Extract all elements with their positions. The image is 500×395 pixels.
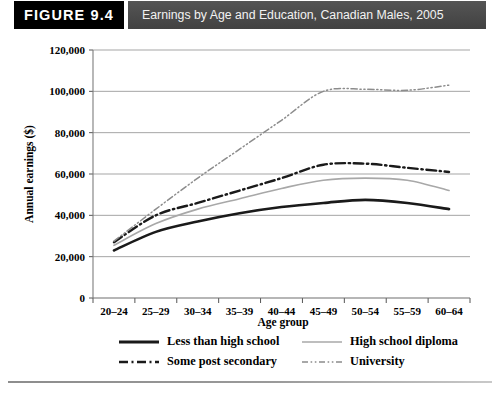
legend-swatch-dashdot-thick-black <box>118 355 160 369</box>
line-chart: 020,00040,00060,00080,000100,000120,000 … <box>0 30 500 330</box>
legend-label: Less than high school <box>167 334 279 349</box>
legend-item-some-post-secondary: Some post secondary <box>118 352 277 371</box>
data-series <box>114 85 449 250</box>
legend-item-university: University <box>301 352 405 371</box>
x-axis-tick-label: 60–64 <box>435 305 463 317</box>
series-line-less-than-high-school <box>114 200 449 251</box>
y-axis-tick-label: 100,000 <box>49 85 85 97</box>
y-axis-tick-label: 20,000 <box>55 251 86 263</box>
figure-title-bar: Earnings by Age and Education, Canadian … <box>128 1 486 29</box>
x-axis-tick-label: 55–59 <box>393 305 421 317</box>
y-axis-tick-label: 60,000 <box>55 168 86 180</box>
legend-label: University <box>350 354 405 369</box>
chart-region: 020,00040,00060,00080,000100,000120,000 … <box>0 30 500 330</box>
legend-swatch-solid-thin-gray <box>301 335 343 349</box>
x-axis-tick-label: 45–49 <box>310 305 338 317</box>
x-axis-tick-label: 35–39 <box>226 305 254 317</box>
figure-number-badge: FIGURE 9.4 <box>14 1 124 29</box>
x-axis-tick-label: 50–54 <box>352 305 380 317</box>
x-axis-ticks <box>93 298 470 303</box>
y-axis-tick-label: 0 <box>80 292 86 304</box>
figure-header: FIGURE 9.4 Earnings by Age and Education… <box>0 0 500 30</box>
x-axis-tick-label: 25–29 <box>142 305 170 317</box>
legend-swatch-dashdotdot-thin-gray <box>301 355 343 369</box>
series-line-university <box>114 85 449 241</box>
y-axis-title: Annual earnings ($) <box>23 125 36 223</box>
legend-item-high-school-diploma: High school diploma <box>301 332 458 351</box>
chart-legend: Less than high school High school diplom… <box>0 332 500 374</box>
y-axis-tick-label: 120,000 <box>49 44 85 56</box>
x-axis-tick-label: 30–34 <box>184 305 212 317</box>
legend-item-less-than-high-school: Less than high school <box>118 332 279 351</box>
legend-label: Some post secondary <box>167 354 277 369</box>
y-axis-tick-label: 40,000 <box>55 209 86 221</box>
figure-title: Earnings by Age and Education, Canadian … <box>142 1 443 29</box>
x-axis-title: Age group <box>257 316 308 329</box>
y-axis-tick-label: 80,000 <box>55 127 86 139</box>
y-axis-tick-labels: 020,00040,00060,00080,000100,000120,000 <box>49 44 85 304</box>
bottom-divider <box>8 381 492 383</box>
x-axis-tick-label: 20–24 <box>100 305 128 317</box>
legend-label: High school diploma <box>350 334 458 349</box>
legend-swatch-solid-thick-black <box>118 335 160 349</box>
y-axis-ticks <box>89 50 93 298</box>
